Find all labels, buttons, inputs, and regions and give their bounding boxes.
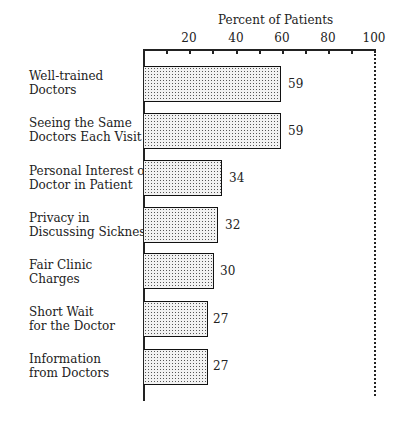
- category-label: Short Wait for the Doctor: [29, 305, 115, 333]
- tick-mark: [282, 49, 284, 54]
- tick-mark: [259, 49, 261, 54]
- value-label: 34: [229, 171, 244, 185]
- bar-privacy: [144, 207, 218, 243]
- category-label: Fair Clinic Charges: [29, 258, 92, 286]
- tick-mark: [236, 49, 238, 54]
- tick-mark: [189, 49, 191, 54]
- tick-mark: [328, 49, 330, 54]
- tick-label-60: 60: [274, 31, 289, 45]
- tick-label-40: 40: [228, 31, 243, 45]
- bar-personal-interest: [144, 160, 222, 196]
- category-label: Personal Interest of Doctor in Patient: [29, 164, 149, 192]
- tick-mark: [166, 49, 168, 54]
- tick-mark: [305, 49, 307, 54]
- value-label: 27: [213, 312, 228, 326]
- tick-label-80: 80: [320, 31, 335, 45]
- value-label: 27: [213, 359, 228, 373]
- x-axis-title: Percent of Patients: [218, 13, 333, 27]
- tick-mark: [212, 49, 214, 54]
- value-label: 59: [288, 77, 303, 91]
- hundred-percent-dotted-line: [374, 51, 376, 396]
- bar-same-doctors: [144, 113, 281, 149]
- tick-label-100: 100: [363, 31, 386, 45]
- bar-fair-charges: [144, 253, 214, 289]
- value-label: 59: [288, 124, 303, 138]
- bar-short-wait: [144, 301, 208, 337]
- tick-mark: [351, 49, 353, 54]
- category-label: Well-trained Doctors: [29, 69, 103, 97]
- value-label: 32: [225, 218, 240, 232]
- bar-well-trained-doctors: [144, 66, 281, 102]
- tick-label-20: 20: [181, 31, 196, 45]
- category-label: Privacy in Discussing Sickness: [29, 211, 152, 239]
- bar-information: [144, 349, 208, 385]
- category-label: Seeing the Same Doctors Each Visit: [29, 116, 142, 144]
- value-label: 30: [220, 264, 235, 278]
- category-label: Information from Doctors: [29, 352, 109, 380]
